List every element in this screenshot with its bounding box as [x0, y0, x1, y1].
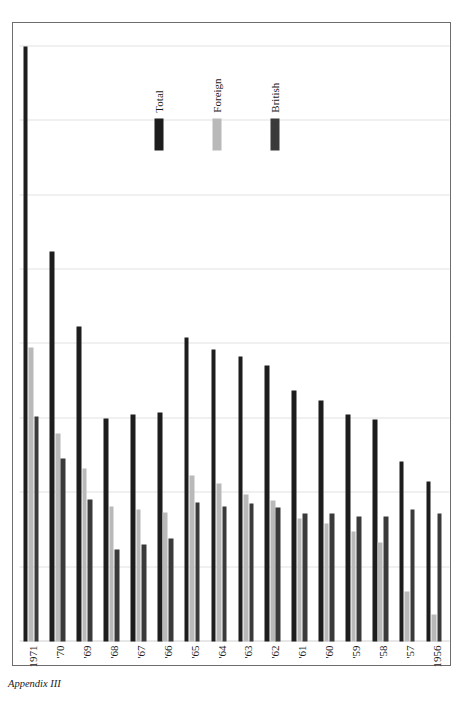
bar-british	[87, 499, 92, 641]
bar-total	[291, 390, 296, 641]
legend-swatch-total	[154, 118, 163, 150]
bar-british	[410, 509, 415, 641]
legend-item-british: British	[269, 23, 309, 150]
category-label-68: '68	[108, 645, 119, 667]
bar-british	[34, 416, 39, 641]
category-label-60: '60	[323, 645, 334, 667]
bar-british	[141, 544, 146, 641]
rotated-chart-wrapper: 0100200300400500600700800Number of Vesse…	[13, 23, 452, 667]
category-label-66: '66	[162, 645, 173, 667]
chart-frame: 0100200300400500600700800Number of Vesse…	[12, 22, 451, 666]
bar-total	[264, 365, 269, 641]
bar-total	[184, 337, 189, 641]
bar-british	[275, 507, 280, 641]
chart-legend: TotalForeignBritish	[153, 23, 333, 150]
bar-total	[49, 251, 54, 641]
legend-label-foreign: Foreign	[211, 78, 222, 112]
bar-total	[372, 419, 377, 641]
bar-foreign	[109, 506, 114, 641]
bar-total	[130, 414, 135, 641]
bar-foreign	[243, 494, 248, 641]
bar-foreign	[431, 614, 436, 641]
bar-foreign	[162, 512, 167, 641]
bar-foreign	[351, 531, 356, 641]
bar-total	[23, 46, 28, 641]
bar-total	[318, 400, 323, 641]
category-label-67: '67	[135, 645, 146, 667]
category-label-57: '57	[404, 645, 415, 667]
bar-british	[383, 516, 388, 641]
bar-foreign	[297, 518, 302, 641]
bar-foreign	[270, 500, 275, 641]
category-label-69: '69	[81, 645, 92, 667]
bar-british	[302, 513, 307, 641]
gridline	[19, 268, 449, 269]
gridline	[19, 417, 449, 418]
bar-british	[249, 503, 254, 641]
legend-swatch-foreign	[212, 118, 221, 150]
bar-total	[211, 349, 216, 641]
legend-item-total: Total	[153, 23, 193, 150]
bar-british	[114, 549, 119, 641]
category-label-1971: 1971	[27, 645, 38, 667]
category-label-65: '65	[189, 645, 200, 667]
legend-swatch-british	[270, 118, 279, 150]
bar-foreign	[28, 347, 33, 641]
gridline	[19, 194, 449, 195]
bar-foreign	[189, 475, 194, 641]
bar-british	[168, 538, 173, 641]
bar-total	[76, 326, 81, 641]
bar-foreign	[82, 468, 87, 641]
bar-foreign	[136, 509, 141, 641]
bar-british	[60, 458, 65, 641]
legend-label-total: Total	[153, 90, 164, 112]
bar-chart-plot-area: 0100200300400500600700800Number of Vesse…	[13, 23, 452, 667]
bar-foreign	[324, 523, 329, 641]
bar-british	[437, 513, 442, 641]
category-label-1956: 1956	[431, 645, 442, 667]
category-label-59: '59	[350, 645, 361, 667]
legend-label-british: British	[269, 82, 280, 112]
bar-foreign	[377, 542, 382, 641]
bar-total	[399, 461, 404, 641]
bar-british	[356, 516, 361, 641]
legend-item-foreign: Foreign	[211, 23, 251, 150]
category-label-64: '64	[216, 645, 227, 667]
figure-caption: Appendix III	[8, 678, 61, 689]
bar-british	[329, 513, 334, 641]
figure-page: 0100200300400500600700800Number of Vesse…	[0, 0, 475, 709]
category-label-58: '58	[377, 645, 388, 667]
bar-foreign	[404, 591, 409, 641]
bar-total	[103, 418, 108, 641]
bar-total	[426, 481, 431, 641]
bar-foreign	[216, 483, 221, 641]
category-label-62: '62	[269, 645, 280, 667]
bar-total	[157, 412, 162, 641]
category-label-70: '70	[54, 645, 65, 667]
bar-british	[222, 506, 227, 641]
bar-foreign	[55, 434, 60, 642]
bar-total	[345, 414, 350, 641]
rotated-chart: 0100200300400500600700800Number of Vesse…	[13, 23, 452, 667]
gridline	[19, 343, 449, 344]
bar-total	[238, 356, 243, 641]
bar-british	[195, 502, 200, 641]
category-label-63: '63	[242, 645, 253, 667]
category-label-61: '61	[296, 645, 307, 667]
